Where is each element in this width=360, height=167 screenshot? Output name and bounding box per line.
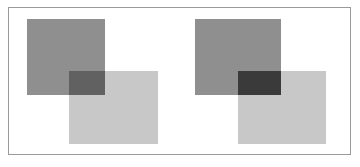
figure-frame — [8, 7, 351, 155]
right-pair-overlap-region — [238, 71, 281, 95]
right-pair-group — [9, 8, 350, 154]
figure-canvas — [0, 0, 360, 167]
